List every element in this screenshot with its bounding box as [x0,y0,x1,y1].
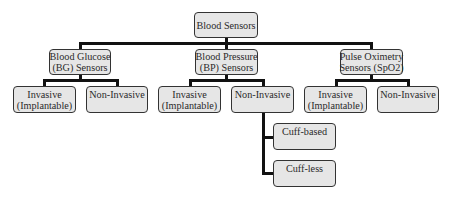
node-label: Cuff-based [282,126,327,137]
node-label: Blood Sensors [196,20,255,31]
node-label-line1: Invasive [172,89,207,100]
node-bg-noninvasive: Non-Invasive [86,86,148,113]
node-label-line2: Sensors (SpO2) [339,62,403,73]
node-blood-sensors: Blood Sensors [194,12,258,38]
node-label-line2: (BP) Sensors [200,62,254,73]
node-spo2-invasive: Invasive (Implantable) [304,86,367,113]
node-label: Cuff-less [286,163,323,174]
node-cuff-less: Cuff-less [273,160,336,187]
node-label-line2: (Implantable) [162,100,217,111]
node-bp-invasive: Invasive (Implantable) [158,86,221,113]
node-label-line1: Blood Glucose [50,51,111,62]
node-label-line1: Invasive [27,89,62,100]
node-bp-noninvasive: Non-Invasive [231,86,294,113]
connector-bg-horizontal [43,79,118,82]
node-label-line1: Non-Invasive [235,89,290,100]
connector-spo2-horizontal [335,79,409,82]
node-bg-invasive: Invasive (Implantable) [13,86,76,113]
node-label-line2: (BG) Sensors [52,62,107,73]
node-label-line2: (Implantable) [17,100,72,111]
node-pulse-oximetry: Pulse Oximetry Sensors (SpO2) [340,49,403,75]
node-label-line1: Non-Invasive [380,89,435,100]
node-label-line1: Invasive [318,89,353,100]
connector-bp-horizontal [189,79,264,82]
node-spo2-noninvasive: Non-Invasive [377,86,439,113]
node-label-line1: Non-Invasive [89,89,144,100]
node-label-line2: (Implantable) [308,100,363,111]
node-blood-pressure: Blood Pressure (BP) Sensors [195,49,258,75]
connector-bp-ni-vertical [262,112,265,174]
node-cuff-based: Cuff-based [273,123,336,150]
node-label-line1: Pulse Oximetry [340,51,404,62]
node-label-line1: Blood Pressure [196,51,258,62]
blood-sensors-diagram: Blood Sensors Blood Glucose (BG) Sensors… [0,0,452,201]
node-blood-glucose: Blood Glucose (BG) Sensors [49,49,111,75]
